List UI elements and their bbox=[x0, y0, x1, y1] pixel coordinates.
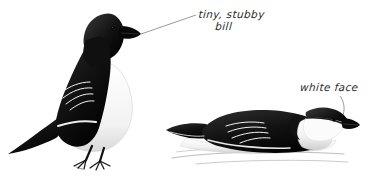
annotation-white-face: white face bbox=[300, 82, 359, 94]
standing-bird-eye bbox=[111, 26, 114, 29]
standing-bird-bill bbox=[119, 26, 141, 39]
annotation-bill-line2: bill bbox=[197, 21, 264, 33]
swimming-bird-bill bbox=[342, 118, 360, 129]
leader-line-bill bbox=[141, 15, 196, 34]
swimming-bird-figure bbox=[166, 108, 360, 165]
standing-bird-figure bbox=[8, 13, 141, 170]
annotation-tiny-stubby-bill: tiny, stubbybill bbox=[197, 9, 265, 32]
swimming-bird-eye bbox=[333, 119, 336, 122]
standing-bird-eye-glint bbox=[112, 27, 113, 28]
standing-bird-tail bbox=[8, 118, 62, 154]
annotation-bill-line1: tiny, stubby bbox=[198, 8, 265, 20]
bird-illustration-plate: tiny, stubbybill white face bbox=[0, 0, 373, 176]
annotation-face-line1: white face bbox=[300, 81, 359, 93]
